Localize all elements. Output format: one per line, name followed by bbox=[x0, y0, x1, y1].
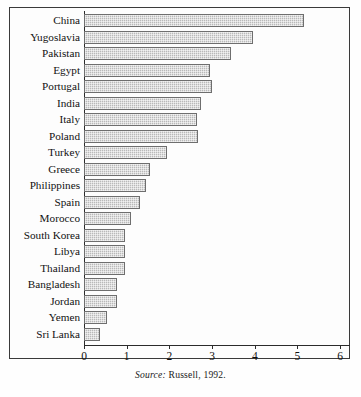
bar-row: Spain bbox=[84, 195, 350, 212]
bar bbox=[84, 97, 201, 110]
value-axis-tick bbox=[127, 345, 128, 349]
value-axis-tick bbox=[212, 345, 213, 349]
bar-row: Italy bbox=[84, 112, 350, 129]
bar-row: India bbox=[84, 96, 350, 113]
value-axis-tick-label: 6 bbox=[328, 350, 352, 362]
value-axis-tick bbox=[84, 345, 85, 349]
value-axis-tick-label: 0 bbox=[72, 350, 96, 362]
value-axis-tick bbox=[255, 345, 256, 349]
bar bbox=[84, 64, 210, 77]
bar bbox=[84, 278, 117, 291]
category-label: Yugoslavia bbox=[30, 30, 80, 45]
bar bbox=[84, 196, 140, 209]
value-axis-tick bbox=[297, 345, 298, 349]
bar-row: South Korea bbox=[84, 228, 350, 245]
bar bbox=[84, 113, 197, 126]
source-text: Russell, 1992. bbox=[169, 369, 226, 380]
value-axis-tick bbox=[169, 345, 170, 349]
bar-row: Yemen bbox=[84, 310, 350, 327]
bar-row: Portugal bbox=[84, 79, 350, 96]
bar bbox=[84, 130, 198, 143]
category-label: Egypt bbox=[53, 63, 80, 78]
category-label: Spain bbox=[55, 195, 80, 210]
bar-row: Jordan bbox=[84, 294, 350, 311]
value-axis-tick-label: 1 bbox=[115, 350, 139, 362]
bar-row: Turkey bbox=[84, 145, 350, 162]
category-label: Italy bbox=[59, 112, 80, 127]
category-label: Turkey bbox=[48, 145, 80, 160]
category-label: Poland bbox=[49, 129, 80, 144]
bar-row: China bbox=[84, 13, 350, 30]
bar bbox=[84, 212, 131, 225]
bar bbox=[84, 311, 107, 324]
bar bbox=[84, 262, 125, 275]
category-label: Sri Lanka bbox=[36, 327, 80, 342]
bar bbox=[84, 245, 125, 258]
figure-container: ChinaYugoslaviaPakistanEgyptPortugalIndi… bbox=[0, 0, 361, 397]
bar-row: Egypt bbox=[84, 63, 350, 80]
source-note: Source: Russell, 1992. bbox=[0, 369, 361, 380]
bars-area: ChinaYugoslaviaPakistanEgyptPortugalIndi… bbox=[84, 13, 350, 343]
category-label: Pakistan bbox=[42, 46, 80, 61]
bar bbox=[84, 80, 212, 93]
bar-row: Poland bbox=[84, 129, 350, 146]
bar bbox=[84, 31, 253, 44]
bar bbox=[84, 328, 100, 341]
value-axis-tick-label: 3 bbox=[200, 350, 224, 362]
bar bbox=[84, 229, 125, 242]
value-axis-line bbox=[84, 345, 350, 346]
source-label: Source: bbox=[135, 369, 166, 380]
category-label: India bbox=[57, 96, 80, 111]
bar-row: Greece bbox=[84, 162, 350, 179]
bar-row: Sri Lanka bbox=[84, 327, 350, 344]
category-label: Portugal bbox=[42, 79, 80, 94]
bar-row: Thailand bbox=[84, 261, 350, 278]
category-label: Thailand bbox=[40, 261, 80, 276]
category-label: Jordan bbox=[50, 294, 80, 309]
category-label: Greece bbox=[48, 162, 80, 177]
bar-row: Pakistan bbox=[84, 46, 350, 63]
category-label: South Korea bbox=[24, 228, 80, 243]
category-label: Yemen bbox=[49, 310, 80, 325]
value-axis-tick-label: 2 bbox=[157, 350, 181, 362]
value-axis-tick bbox=[340, 345, 341, 349]
bar bbox=[84, 295, 117, 308]
bar bbox=[84, 47, 231, 60]
category-label: Philippines bbox=[30, 178, 80, 193]
category-label: Libya bbox=[54, 244, 80, 259]
bar-row: Morocco bbox=[84, 211, 350, 228]
value-axis-tick-label: 4 bbox=[243, 350, 267, 362]
bar bbox=[84, 14, 304, 27]
value-axis-tick-label: 5 bbox=[285, 350, 309, 362]
bar-row: Philippines bbox=[84, 178, 350, 195]
bar bbox=[84, 163, 150, 176]
bar bbox=[84, 179, 146, 192]
bar-row: Libya bbox=[84, 244, 350, 261]
category-label: Bangladesh bbox=[28, 277, 80, 292]
category-label: China bbox=[53, 13, 80, 28]
category-label: Morocco bbox=[40, 211, 80, 226]
bar bbox=[84, 146, 167, 159]
bar-row: Yugoslavia bbox=[84, 30, 350, 47]
bar-row: Bangladesh bbox=[84, 277, 350, 294]
